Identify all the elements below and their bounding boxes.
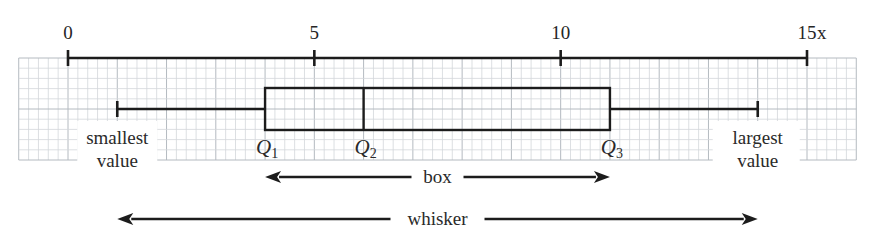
- tick-label: 5: [310, 22, 320, 43]
- tick-label: 15: [798, 22, 817, 43]
- arrowhead-left-icon: [265, 171, 281, 183]
- arrowhead-left-icon: [117, 213, 133, 225]
- arrowhead-right-icon: [594, 171, 610, 183]
- q3-subscript: 3: [616, 146, 623, 161]
- largest-value-label: value: [737, 150, 778, 171]
- q1-subscript: 1: [271, 146, 278, 161]
- whisker-label: whisker: [407, 208, 468, 229]
- q2-letter: Q: [355, 135, 370, 159]
- box-label: box: [423, 166, 452, 187]
- box-span-arrow: box: [265, 166, 610, 187]
- axis-variable-label: x: [817, 22, 827, 43]
- q3-letter: Q: [601, 135, 616, 159]
- largest-value-label: largest: [733, 127, 784, 148]
- box-plot-diagram: 0 5 10 15 x smallest value largest value…: [0, 0, 872, 237]
- tick-label: 0: [63, 22, 73, 43]
- whisker-span-arrow: whisker: [117, 208, 757, 229]
- smallest-value-label: value: [97, 150, 138, 171]
- tick-label: 10: [551, 22, 570, 43]
- number-line-axis: 0 5 10 15 x: [63, 22, 827, 66]
- smallest-value-label: smallest: [86, 127, 149, 148]
- arrowhead-right-icon: [742, 213, 758, 225]
- q2-subscript: 2: [370, 146, 377, 161]
- q1-letter: Q: [256, 135, 271, 159]
